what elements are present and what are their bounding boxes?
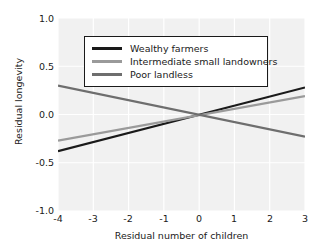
legend-swatch-icon [92, 73, 122, 76]
legend-item-label: Intermediate small landowners [130, 57, 277, 67]
x-tick-label: 0 [187, 214, 211, 224]
chart-figure: 1.0 0.5 0.0 -0.5 -1.0 -4 -3 -2 -1 0 1 2 … [0, 0, 319, 251]
x-tick-label: -1 [152, 214, 176, 224]
legend-swatch-icon [92, 47, 122, 50]
y-tick-label: 1.0 [20, 14, 54, 24]
x-tick-label: 1 [222, 214, 246, 224]
legend-item: Poor landless [92, 68, 260, 81]
y-axis-title: Residual longevity [13, 2, 24, 202]
legend-item-label: Wealthy farmers [130, 44, 208, 54]
x-tick-label: 2 [258, 214, 282, 224]
y-tick-label: 0.0 [20, 110, 54, 120]
x-tick-label: -2 [116, 214, 140, 224]
x-tick-label: -4 [46, 214, 70, 224]
legend-item: Wealthy farmers [92, 42, 260, 55]
legend-item-label: Poor landless [130, 70, 193, 80]
x-tick-label: -3 [81, 214, 105, 224]
y-tick-label: 0.5 [20, 62, 54, 72]
legend-swatch-icon [92, 60, 122, 63]
x-tick-label: 3 [293, 214, 317, 224]
legend-item: Intermediate small landowners [92, 55, 260, 68]
legend: Wealthy farmers Intermediate small lando… [84, 36, 268, 87]
y-tick-label: -0.5 [20, 158, 54, 168]
x-axis-title: Residual number of children [58, 230, 305, 241]
